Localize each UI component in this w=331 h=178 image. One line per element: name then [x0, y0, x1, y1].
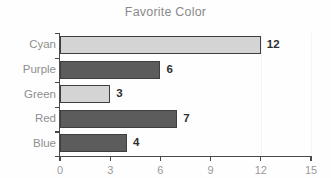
x-tick-label: 3 [107, 164, 113, 176]
bar-value-blue: 4 [133, 136, 139, 148]
bar-row: 3 [60, 82, 311, 107]
x-tick [310, 156, 311, 161]
bar-chart: Favorite Color 03691215 126374 CyanPurpl… [0, 0, 331, 178]
bar-row: 12 [60, 33, 311, 58]
x-tick-label: 0 [57, 164, 63, 176]
x-tick-label: 9 [208, 164, 214, 176]
category-label-blue: Blue [33, 137, 56, 149]
x-axis-line [59, 156, 312, 157]
bar-green [60, 85, 110, 103]
bar-value-cyan: 12 [267, 38, 280, 50]
bar-blue [60, 134, 127, 152]
chart-title: Favorite Color [0, 5, 331, 19]
bar-row: 6 [60, 58, 311, 83]
bar-cyan [60, 36, 261, 54]
category-label-red: Red [35, 112, 56, 124]
bar-row: 7 [60, 107, 311, 132]
x-tick-label: 15 [305, 164, 317, 176]
bar-value-purple: 6 [166, 63, 172, 75]
x-tick [110, 156, 111, 161]
bar-purple [60, 61, 160, 79]
x-tick [260, 156, 261, 161]
category-label-purple: Purple [23, 63, 56, 75]
bar-row: 4 [60, 131, 311, 156]
category-label-cyan: Cyan [29, 38, 56, 50]
plot-area: 03691215 126374 [60, 33, 311, 156]
x-tick [210, 156, 211, 161]
x-tick-label: 12 [255, 164, 267, 176]
x-tick [160, 156, 161, 161]
bar-value-green: 3 [116, 87, 122, 99]
bar-red [60, 110, 177, 128]
x-tick [59, 156, 60, 161]
bar-value-red: 7 [183, 112, 189, 124]
category-label-green: Green [24, 88, 56, 100]
x-tick-label: 6 [157, 164, 163, 176]
gridline [311, 33, 312, 156]
